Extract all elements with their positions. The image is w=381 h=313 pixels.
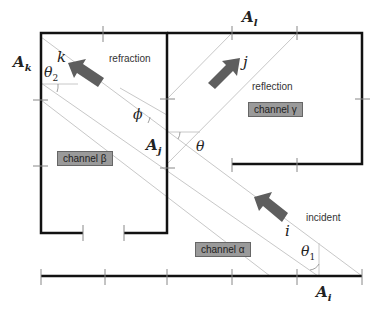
channel-gamma-box: channel γ	[248, 102, 303, 117]
point-A-j: Aj	[146, 136, 161, 156]
wave-label-j: j	[243, 53, 248, 71]
channel-beta-box: channel β	[57, 151, 113, 166]
angle-phi: ϕ	[133, 106, 143, 122]
point-A-l: Al	[242, 8, 257, 28]
arrow-j-icon	[208, 58, 240, 89]
angle-theta: θ	[196, 138, 204, 154]
point-A-k: Ak	[13, 53, 32, 73]
label-incident: incident	[306, 212, 340, 223]
wave-label-i: i	[285, 222, 290, 240]
arrow-i-icon	[254, 192, 288, 222]
point-A-i: Ai	[316, 283, 331, 303]
channel-alpha-box: channel α	[195, 242, 251, 257]
angle-theta1: θ1	[301, 243, 315, 262]
label-reflection: reflection	[252, 81, 293, 92]
wave-label-k: k	[57, 48, 66, 66]
arrow-k-icon	[68, 59, 104, 87]
label-refraction: refraction	[109, 53, 151, 64]
angle-theta2: θ2	[44, 64, 58, 83]
